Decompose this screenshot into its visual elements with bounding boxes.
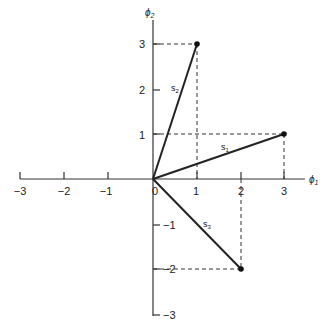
s2-label: s2: [171, 83, 180, 94]
s1-label: s1: [221, 142, 230, 153]
s1-point: [281, 131, 287, 137]
x-axis-label: ϕ1: [309, 174, 319, 186]
x-tick-label: −3: [14, 185, 27, 197]
vector-s1: [153, 134, 284, 179]
y-tick-label: 1: [139, 129, 145, 141]
vectors: [153, 44, 284, 269]
y-tick-label: 3: [139, 38, 145, 50]
s3-label: s3: [203, 219, 212, 230]
s2-point: [194, 41, 200, 47]
x-tick-label: 2: [238, 185, 244, 197]
x-tick-label: 3: [281, 185, 287, 197]
x-tick-label: −1: [100, 185, 113, 197]
vector-s2: [153, 44, 197, 179]
x-tick-label: 1: [193, 185, 199, 197]
y-axis-label: ϕ2: [145, 7, 155, 19]
origin-label: 0: [152, 185, 158, 197]
y-tick-label: −3: [163, 309, 176, 321]
s3-point: [238, 266, 244, 272]
x-tick-label: −2: [58, 185, 71, 197]
vector-diagram: ϕ2 ϕ1 −3 −2 −1 0 1 2 3 3 2 1 −1 −2 −3 s1…: [0, 0, 328, 327]
y-tick-label: 2: [139, 84, 145, 96]
y-tick-label: −2: [163, 263, 176, 275]
y-tick-label: −1: [163, 219, 176, 231]
